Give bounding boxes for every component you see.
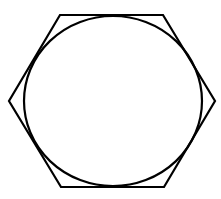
inscribed-circle (24, 16, 202, 186)
hexagon-shape (9, 15, 215, 187)
diagram-canvas (0, 0, 221, 199)
